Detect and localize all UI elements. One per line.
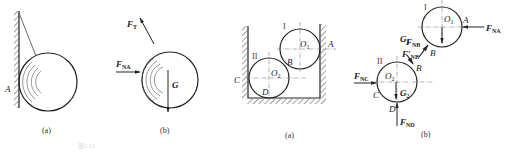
floor-hatch xyxy=(247,99,326,104)
label-D: D xyxy=(388,104,396,114)
label-A: A xyxy=(4,84,11,94)
label-G1: G1 xyxy=(400,34,410,45)
label-FNA: FNA xyxy=(115,59,131,70)
rope xyxy=(19,13,36,56)
label-O1: O1 xyxy=(300,39,310,50)
label-O2: O2 xyxy=(271,68,281,79)
label-FND: FND xyxy=(399,117,415,128)
label-B2: B xyxy=(416,63,422,73)
label-A: A xyxy=(327,39,334,49)
center-lines xyxy=(372,0,468,104)
label-C: C xyxy=(234,75,241,85)
caption-left-b: (b) xyxy=(160,126,170,135)
label-I: I xyxy=(424,3,427,12)
mechanics-diagram: A (a) FT FNA G (b) I II xyxy=(0,0,506,152)
panel-right-b: I II O1 O2 A B B C D FNA FNB F′NB FNC FN… xyxy=(353,0,501,139)
right-wall-hatch xyxy=(321,24,326,99)
tension-arrow xyxy=(140,18,154,44)
wall-hatch xyxy=(14,11,19,108)
label-A: A xyxy=(462,15,469,25)
label-D: D xyxy=(261,87,269,97)
label-FT: FT xyxy=(126,19,137,30)
label-C: C xyxy=(373,90,380,100)
label-G: G xyxy=(172,80,179,90)
ball-shading xyxy=(23,62,41,102)
label-G2: G2 xyxy=(400,88,410,99)
label-O2: O2 xyxy=(385,71,395,82)
label-B1: B xyxy=(430,48,436,58)
faint-figure-number: 图1-11 xyxy=(78,143,96,150)
left-wall-hatch xyxy=(242,26,247,99)
panel-left-a: A (a) xyxy=(4,11,77,135)
label-FNC: FNC xyxy=(353,71,369,82)
label-FNB-prime: F′NB xyxy=(401,49,419,60)
label-I: I xyxy=(283,22,286,31)
caption-right-b: (b) xyxy=(421,130,431,139)
caption-right-a: (a) xyxy=(285,131,294,140)
ball-shading xyxy=(142,58,163,102)
panel-left-b: FT FNA G (b) xyxy=(115,18,198,135)
label-II: II xyxy=(377,57,383,66)
panel-right-a: I II O1 O2 A B C D (a) xyxy=(234,22,336,140)
label-O1: O1 xyxy=(444,14,454,25)
label-B: B xyxy=(287,57,293,67)
caption-left-a: (a) xyxy=(42,126,51,135)
ball xyxy=(19,53,77,111)
label-FNA: FNA xyxy=(485,23,501,34)
label-II: II xyxy=(252,52,258,61)
